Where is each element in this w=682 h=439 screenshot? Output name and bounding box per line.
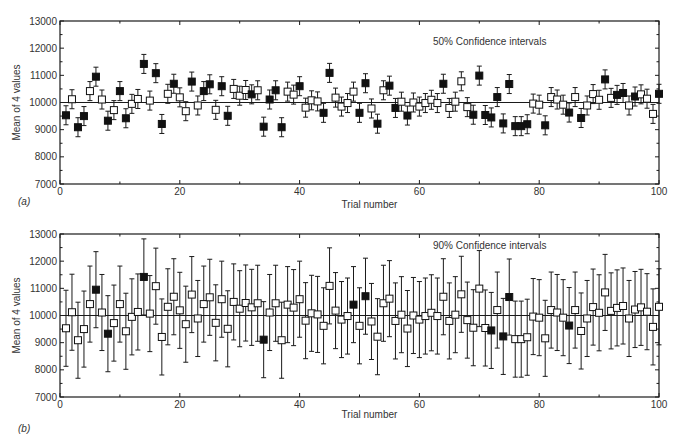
data-point: [350, 82, 357, 101]
open-square-marker: [398, 311, 405, 318]
data-point: [644, 274, 651, 350]
open-square-marker: [584, 315, 591, 322]
y-tick-label: 11000: [30, 70, 58, 81]
open-square-marker: [464, 104, 471, 111]
data-point: [506, 75, 513, 94]
open-square-marker: [602, 289, 609, 296]
filled-square-marker: [152, 70, 159, 77]
open-square-marker: [302, 104, 309, 111]
filled-square-marker: [296, 83, 303, 90]
open-square-marker: [536, 101, 543, 108]
data-point: [650, 289, 657, 365]
data-point: [68, 90, 75, 109]
open-square-marker: [332, 94, 339, 101]
data-point: [440, 74, 447, 93]
data-point: [122, 109, 129, 128]
filled-square-marker: [488, 327, 495, 334]
y-axis-title: Mean of 4 values: [11, 64, 22, 140]
data-point: [380, 265, 387, 341]
data-point: [572, 88, 579, 107]
data-point: [566, 288, 573, 364]
filled-square-marker: [320, 109, 327, 116]
open-square-marker: [218, 296, 225, 303]
filled-square-marker: [200, 88, 207, 95]
data-point: [542, 116, 549, 135]
filled-square-marker: [278, 124, 285, 131]
open-square-marker: [440, 293, 447, 300]
open-square-marker: [290, 304, 297, 311]
open-square-marker: [368, 105, 375, 112]
data-point: [554, 274, 561, 350]
open-square-marker: [224, 325, 231, 332]
open-square-marker: [86, 88, 93, 95]
data-point: [500, 114, 507, 133]
open-square-marker: [230, 298, 237, 305]
filled-square-marker: [506, 81, 513, 88]
data-point: [110, 285, 117, 361]
open-square-marker: [374, 333, 381, 340]
data-point: [368, 99, 375, 118]
data-point: [152, 64, 159, 83]
open-square-marker: [332, 307, 339, 314]
data-point: [170, 259, 177, 335]
chart-a-plot: 7000800090001000011000120001300002040608…: [0, 0, 682, 215]
filled-square-marker: [140, 60, 147, 67]
x-tick-label: 80: [534, 399, 546, 410]
open-square-marker: [164, 303, 171, 310]
data-point: [116, 82, 123, 101]
data-point: [236, 271, 243, 347]
open-square-marker: [458, 78, 465, 85]
open-square-marker: [542, 335, 549, 342]
x-tick-label: 60: [414, 186, 426, 197]
filled-square-marker: [494, 94, 501, 101]
data-point: [374, 114, 381, 133]
data-point: [278, 302, 285, 378]
filled-square-marker: [74, 124, 81, 131]
filled-square-marker: [356, 109, 363, 116]
y-tick-label: 13000: [29, 229, 57, 240]
open-square-marker: [194, 315, 201, 322]
data-point: [458, 72, 465, 91]
filled-square-marker: [542, 122, 549, 129]
filled-square-marker: [500, 333, 507, 340]
data-point: [200, 266, 207, 342]
open-square-marker: [656, 303, 663, 310]
open-square-marker: [572, 94, 579, 101]
y-tick-label: 9000: [35, 124, 58, 135]
data-point: [80, 107, 87, 126]
data-point: [290, 270, 297, 346]
filled-square-marker: [122, 115, 129, 122]
open-square-marker: [290, 91, 297, 98]
filled-square-marker: [80, 113, 87, 120]
y-axis-title: Mean of 4 values: [11, 277, 22, 353]
open-square-marker: [110, 320, 117, 327]
x-axis-title: Trial number: [342, 409, 398, 420]
open-square-marker: [98, 309, 105, 316]
chart-annotation: 50% Confidence intervals: [433, 36, 546, 47]
open-square-marker: [182, 108, 189, 115]
data-point: [356, 103, 363, 122]
open-square-marker: [326, 282, 333, 289]
open-square-marker: [80, 326, 87, 333]
data-point: [140, 239, 147, 315]
data-point: [224, 106, 231, 125]
data-point: [536, 280, 543, 356]
x-tick-label: 40: [294, 399, 306, 410]
data-point: [620, 268, 627, 344]
open-square-marker: [650, 323, 657, 330]
open-square-marker: [86, 301, 93, 308]
y-tick-label: 9000: [35, 337, 58, 348]
y-tick-label: 12000: [29, 256, 57, 267]
data-point: [248, 269, 255, 345]
data-point: [584, 280, 591, 356]
data-point: [62, 290, 69, 366]
open-square-marker: [368, 318, 375, 325]
y-tick-label: 7000: [35, 392, 58, 403]
filled-square-marker: [374, 120, 381, 127]
x-tick-label: 60: [414, 399, 426, 410]
open-square-marker: [386, 295, 393, 302]
data-point: [86, 82, 93, 101]
open-square-marker: [452, 98, 459, 105]
open-square-marker: [572, 307, 579, 314]
open-square-marker: [464, 317, 471, 324]
